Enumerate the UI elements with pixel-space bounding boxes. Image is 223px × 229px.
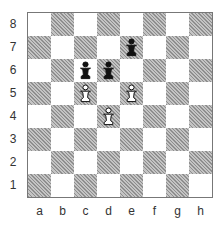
- square-b1: [51, 174, 74, 197]
- rank-label: 1: [8, 174, 18, 197]
- rank-label: 7: [8, 36, 18, 59]
- square-f2: [143, 151, 166, 174]
- rank-label: 3: [8, 128, 18, 151]
- file-label: e: [120, 204, 143, 218]
- rank-label: 4: [8, 105, 18, 128]
- square-a3: [28, 128, 51, 151]
- square-g6: [166, 59, 189, 82]
- file-label: a: [28, 204, 51, 218]
- white-pawn-icon: [97, 105, 120, 128]
- square-c4: [74, 105, 97, 128]
- black-pawn-icon: [74, 59, 97, 82]
- square-b7: [51, 36, 74, 59]
- square-a7: [28, 36, 51, 59]
- square-b4: [51, 105, 74, 128]
- square-b6: [51, 59, 74, 82]
- square-d6: [97, 59, 120, 82]
- square-e6: [120, 59, 143, 82]
- square-a2: [28, 151, 51, 174]
- file-label: f: [143, 204, 166, 218]
- square-g2: [166, 151, 189, 174]
- square-e8: [120, 13, 143, 36]
- file-label: d: [97, 204, 120, 218]
- rank-label: 2: [8, 151, 18, 174]
- file-label: c: [74, 204, 97, 218]
- square-f5: [143, 82, 166, 105]
- square-g3: [166, 128, 189, 151]
- square-d2: [97, 151, 120, 174]
- square-e5: [120, 82, 143, 105]
- square-e1: [120, 174, 143, 197]
- square-c7: [74, 36, 97, 59]
- square-d8: [97, 13, 120, 36]
- square-f1: [143, 174, 166, 197]
- square-c6: [74, 59, 97, 82]
- square-f3: [143, 128, 166, 151]
- file-label: h: [189, 204, 212, 218]
- square-e7: [120, 36, 143, 59]
- square-a4: [28, 105, 51, 128]
- square-h3: [189, 128, 212, 151]
- square-a5: [28, 82, 51, 105]
- square-a1: [28, 174, 51, 197]
- square-g7: [166, 36, 189, 59]
- file-label: g: [166, 204, 189, 218]
- square-h6: [189, 59, 212, 82]
- square-f7: [143, 36, 166, 59]
- square-h7: [189, 36, 212, 59]
- square-a6: [28, 59, 51, 82]
- square-c1: [74, 174, 97, 197]
- square-c5: [74, 82, 97, 105]
- rank-label: 5: [8, 82, 18, 105]
- square-g4: [166, 105, 189, 128]
- square-g5: [166, 82, 189, 105]
- white-pawn-icon: [120, 82, 143, 105]
- square-b2: [51, 151, 74, 174]
- black-pawn-icon: [97, 59, 120, 82]
- square-e4: [120, 105, 143, 128]
- file-label: b: [51, 204, 74, 218]
- square-e2: [120, 151, 143, 174]
- square-d7: [97, 36, 120, 59]
- square-d3: [97, 128, 120, 151]
- square-b8: [51, 13, 74, 36]
- square-c2: [74, 151, 97, 174]
- square-f6: [143, 59, 166, 82]
- square-d5: [97, 82, 120, 105]
- square-h8: [189, 13, 212, 36]
- square-c8: [74, 13, 97, 36]
- square-h4: [189, 105, 212, 128]
- square-d4: [97, 105, 120, 128]
- square-c3: [74, 128, 97, 151]
- square-h5: [189, 82, 212, 105]
- square-g1: [166, 174, 189, 197]
- square-b5: [51, 82, 74, 105]
- square-f8: [143, 13, 166, 36]
- square-b3: [51, 128, 74, 151]
- square-h1: [189, 174, 212, 197]
- square-e3: [120, 128, 143, 151]
- chess-board: [27, 12, 213, 198]
- square-h2: [189, 151, 212, 174]
- white-pawn-icon: [74, 82, 97, 105]
- square-g8: [166, 13, 189, 36]
- rank-label: 6: [8, 59, 18, 82]
- square-f4: [143, 105, 166, 128]
- square-a8: [28, 13, 51, 36]
- square-d1: [97, 174, 120, 197]
- black-pawn-icon: [120, 36, 143, 59]
- rank-label: 8: [8, 13, 18, 36]
